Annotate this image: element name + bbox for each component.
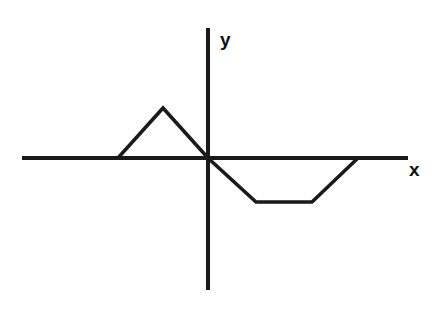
graph-figure: x y (0, 0, 444, 311)
y-axis-label: y (220, 29, 231, 50)
x-axis-label: x (409, 159, 420, 180)
plot-canvas: x y (0, 0, 444, 311)
